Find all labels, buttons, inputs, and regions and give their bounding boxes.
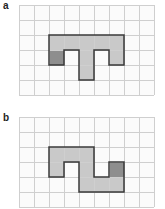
shape-cell-light — [109, 177, 124, 192]
shape-cell-light — [79, 162, 94, 177]
shape-cell-light — [94, 177, 109, 192]
shape-cell-light — [79, 177, 94, 192]
shape-cell-light — [64, 147, 79, 162]
grid-diagram-b — [0, 0, 165, 209]
shape-cell-light — [49, 162, 64, 177]
shape-cell-light — [49, 147, 64, 162]
shape-cell-dark — [109, 162, 124, 177]
shape-cell-light — [79, 147, 94, 162]
